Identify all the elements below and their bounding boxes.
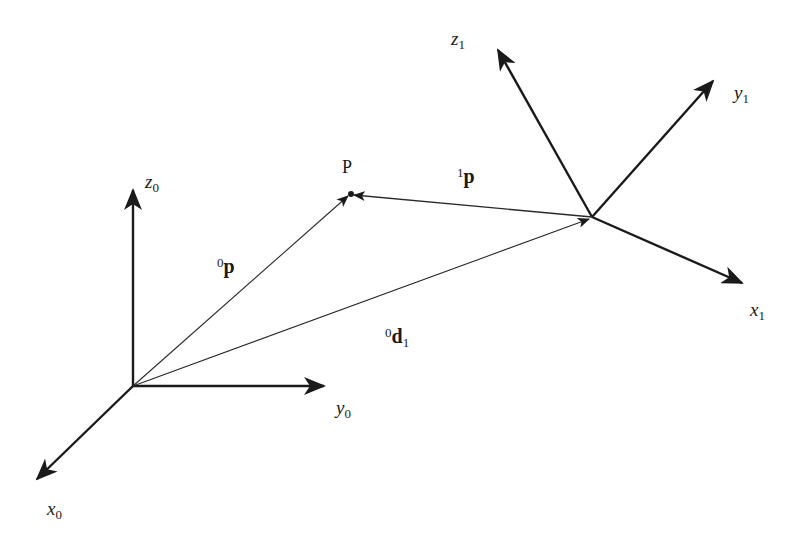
vector-0d1-label: 0d1: [385, 325, 409, 350]
vector-0d1: [133, 219, 589, 386]
vector-0p-label: 0p: [217, 255, 235, 278]
x1-label: x1: [749, 299, 765, 323]
frame0: [37, 190, 324, 479]
vector-1p: [354, 195, 592, 217]
vectors: [133, 195, 592, 386]
x1-axis: [592, 217, 742, 283]
frame1: [498, 50, 742, 283]
y1-axis: [592, 81, 713, 217]
frame-diagram: P z0 y0 x0 z1 y1 x1 0p 1p 0d1: [0, 0, 794, 549]
point-p-label: P: [342, 157, 352, 177]
x0-label: x0: [46, 498, 62, 522]
vector-0p: [133, 196, 348, 386]
z1-label: z1: [450, 28, 465, 52]
z1-axis: [498, 50, 592, 217]
vector-1p-label: 1p: [457, 165, 475, 188]
y0-label: y0: [334, 397, 351, 421]
point-p-marker: [348, 191, 354, 197]
z0-label: z0: [144, 171, 159, 195]
x0-axis: [37, 386, 133, 479]
y1-label: y1: [732, 82, 749, 106]
